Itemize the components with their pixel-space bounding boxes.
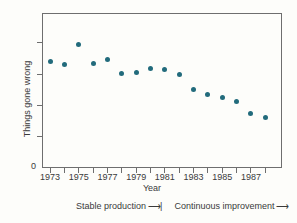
x-axis-tick-label: 1985 — [208, 172, 236, 182]
y-axis-title: Things gone wrong — [22, 44, 34, 154]
y-axis-tick — [37, 74, 42, 75]
annotation-label: Continuous improvement — [174, 201, 274, 211]
annotation-stable-production: Stable production ⟶| — [76, 201, 161, 211]
annotation-continuous-improvement: Continuous improvement ⟶ — [174, 201, 288, 211]
data-point — [48, 59, 53, 64]
y-axis-tick — [37, 42, 42, 43]
arrow-right-icon: ⟶ — [276, 201, 288, 211]
data-point — [191, 87, 196, 92]
x-axis-tick-label: 1975 — [65, 172, 93, 182]
x-axis-tick-label: 1977 — [93, 172, 121, 182]
x-axis-title: Year — [42, 183, 262, 193]
x-axis-tick-label: 1987 — [237, 172, 265, 182]
y-axis-origin-label: 0 — [26, 161, 36, 171]
data-point — [105, 57, 110, 62]
annotation-label: Stable production — [76, 201, 146, 211]
data-point — [148, 66, 153, 71]
plot-area — [42, 13, 282, 168]
data-point — [134, 70, 139, 75]
x-axis-tick-label: 1979 — [122, 172, 150, 182]
data-point — [162, 67, 167, 72]
x-axis-tick-label: 1983 — [180, 172, 208, 182]
data-point — [263, 115, 268, 120]
scatter-chart-figure: Things gone wrong 0 19731975197719791981… — [0, 0, 297, 223]
x-axis-tick-label: 1973 — [36, 172, 64, 182]
data-point — [177, 72, 182, 77]
phase-annotation-row: Stable production ⟶| Continuous improvem… — [76, 201, 288, 211]
data-point — [91, 61, 96, 66]
x-axis-tick — [265, 168, 266, 173]
y-axis-tick — [37, 136, 42, 137]
x-axis-tick-label: 1981 — [151, 172, 179, 182]
y-axis-tick — [37, 105, 42, 106]
data-point — [76, 42, 81, 47]
arrow-to-bar-icon: ⟶| — [148, 201, 161, 211]
